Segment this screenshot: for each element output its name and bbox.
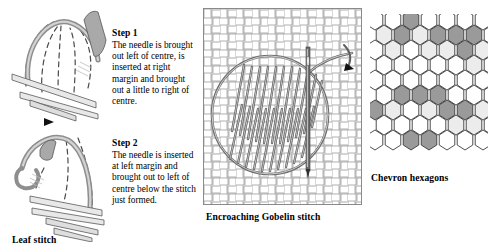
step-1-title: Step 1 [112, 28, 198, 39]
chevron-hexagons-panel [370, 14, 488, 166]
gobelin-canvas [203, 8, 362, 205]
chevron-hexagons-caption: Chevron hexagons [371, 172, 448, 183]
hexagon-cell [439, 130, 455, 150]
step-2-title: Step 2 [112, 138, 198, 149]
leaf-stitch-caption: Leaf stitch [12, 234, 57, 245]
gobelin-stitch-caption: Encroaching Gobelin stitch [206, 211, 320, 222]
step-2-block: Step 2 The needle is inserted at left ma… [112, 138, 198, 206]
step-2-body: The needle is inserted at left margin an… [112, 150, 198, 206]
step-1-block: Step 1 The needle is brought out left of… [112, 28, 198, 107]
step-1-body: The needle is brought out left of centre… [112, 40, 198, 107]
figure-page: Step 1 The needle is brought out left of… [0, 0, 491, 248]
hexagon-cell [421, 130, 437, 150]
hexagon-cell [457, 130, 473, 150]
hexagon-cell [385, 130, 401, 150]
canvas-weave-texture [204, 9, 362, 205]
hexagon-grid [370, 14, 488, 166]
leaf-stitch-step1-illustration [6, 8, 114, 126]
hexagon-cell [403, 130, 419, 150]
leaf-stitch-step2-illustration [6, 124, 114, 242]
leaf-stitch-panel: Step 1 The needle is brought out left of… [0, 0, 200, 248]
